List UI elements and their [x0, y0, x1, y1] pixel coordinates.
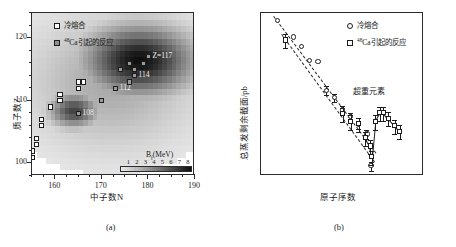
- overlay-marker: [39, 123, 44, 128]
- legend-a-ca: 48Ca引起的反应: [54, 35, 113, 47]
- overlay-marker: [127, 79, 132, 84]
- open-circle-icon: [347, 23, 353, 29]
- colorbar-tick-label: 4: [150, 158, 158, 165]
- y-minor-tick: [29, 162, 32, 163]
- heatmap-cell: [190, 107, 194, 114]
- x-minor-tick: [66, 174, 67, 177]
- y-minor-tick: [29, 25, 32, 26]
- y-minor-tick: [29, 12, 32, 13]
- colorbar-tick-label: 2: [133, 158, 141, 165]
- overlay-marker: [132, 73, 137, 78]
- data-point-ca48: [397, 129, 402, 134]
- error-bar-cap: [369, 151, 374, 152]
- panel-b: 冷熔合 48Ca引起的反应 超重元素 10⁵10⁴10³10²10¹10⁰10⁻…: [228, 0, 456, 247]
- heatmap-cell: [190, 69, 194, 76]
- overlay-marker: [81, 79, 86, 84]
- colorbar-tick-label: 6: [167, 158, 175, 165]
- figure-root: 108112114Z=117 冷熔合 48Ca引起的反应 100110120 1…: [0, 0, 456, 247]
- error-bar-cap: [332, 102, 337, 103]
- legend-a-ca-label: 48Ca引起的反应: [64, 38, 113, 47]
- heatmap-cell: [190, 101, 194, 108]
- legend-b-cold-label: 冷熔合: [357, 21, 378, 30]
- error-bar-cap: [348, 130, 353, 131]
- heatmap-cell: [190, 32, 194, 39]
- error-bar-cap: [397, 139, 402, 140]
- open-square-icon: [347, 40, 353, 46]
- error-bar-cap: [381, 121, 386, 122]
- overlay-marker: [57, 92, 62, 97]
- error-bar-cap: [368, 140, 373, 141]
- x-minor-tick: [43, 174, 44, 177]
- x-minor-tick: [182, 174, 183, 177]
- heatmap-cell: [181, 151, 186, 158]
- x-minor-tick: [124, 174, 125, 177]
- overlay-marker: [48, 104, 53, 109]
- heatmap-cell: [190, 138, 194, 145]
- error-bar-cap: [373, 115, 378, 116]
- gray-square-icon: [54, 40, 60, 46]
- overlay-marker: [113, 86, 118, 91]
- overlay-marker: [76, 111, 81, 116]
- overlay-marker: [99, 98, 104, 103]
- data-point-ca48: [283, 37, 288, 42]
- y-tick-label: 100: [5, 157, 27, 166]
- heatmap-cell: [190, 19, 194, 26]
- heatmap-cell: [190, 44, 194, 51]
- data-point-ca48: [340, 111, 345, 116]
- heatmap-cell: [190, 95, 194, 102]
- x-minor-tick: [147, 174, 148, 177]
- overlay-label: 108: [83, 109, 94, 117]
- error-bar-cap: [348, 115, 353, 116]
- y-minor-tick: [29, 75, 32, 76]
- panel-b-y-axis-title: 总蒸发剩余截面/pb: [237, 86, 249, 160]
- x-tick-label: 170: [89, 181, 113, 190]
- y-minor-tick: [29, 125, 32, 126]
- data-point-ca48: [369, 154, 374, 159]
- error-bar-cap: [369, 165, 374, 166]
- open-square-icon: [54, 23, 60, 29]
- superheavy-annotation: 超重元素: [353, 85, 385, 96]
- x-minor-tick: [194, 174, 195, 177]
- data-point-ca48: [356, 121, 361, 126]
- overlay-marker: [146, 54, 151, 59]
- heatmap-cell: [190, 120, 194, 127]
- x-minor-tick: [31, 174, 32, 177]
- panel-b-caption: (b): [334, 222, 344, 232]
- heatmap-cell: [190, 145, 194, 152]
- error-bar-cap: [397, 125, 402, 126]
- x-minor-tick: [89, 174, 90, 177]
- heatmap-cell: [190, 13, 194, 20]
- overlay-label: 114: [138, 71, 149, 79]
- colorbar-tick-label: 5: [158, 158, 166, 165]
- heatmap-cell: [190, 88, 194, 95]
- x-minor-tick: [54, 174, 55, 177]
- x-minor-tick: [78, 174, 79, 177]
- heatmap-cell: [190, 38, 194, 45]
- colorbar-tick-label: 8: [184, 158, 192, 165]
- heatmap-cell: [190, 113, 194, 120]
- error-bar-cap: [340, 122, 345, 123]
- colorbar-tick-label: 1: [124, 158, 132, 165]
- error-bar-cap: [363, 132, 368, 133]
- error-bar-cap: [392, 120, 397, 121]
- overlay-marker: [34, 142, 39, 147]
- x-minor-tick: [136, 174, 137, 177]
- x-tick-label: 160: [42, 181, 66, 190]
- overlay-marker: [34, 136, 39, 141]
- error-bar-cap: [386, 112, 391, 113]
- error-bar-cap: [373, 130, 378, 131]
- colorbar-tick-label: 7: [175, 158, 183, 165]
- data-point-ca48: [348, 119, 353, 124]
- y-minor-tick: [29, 62, 32, 63]
- overlay-marker: [57, 98, 62, 103]
- colorbar-tick-label: 3: [141, 158, 149, 165]
- x-minor-tick: [159, 174, 160, 177]
- data-point-cold-fusion: [291, 34, 296, 39]
- error-bar-cap: [356, 132, 361, 133]
- y-minor-tick: [29, 137, 32, 138]
- data-point-cold-fusion: [275, 18, 280, 23]
- x-minor-tick: [113, 174, 114, 177]
- y-minor-tick: [29, 112, 32, 113]
- heatmap-cell: [190, 51, 194, 58]
- overlay-marker: [127, 61, 132, 66]
